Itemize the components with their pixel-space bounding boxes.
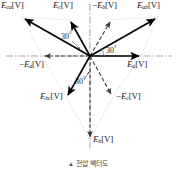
label-minus-Ec: −Ec[V]	[116, 92, 141, 101]
phasor-diagram: Eca[V] Ec[V] −Eb[V] Eab[V] −Ea[V] Ea[V] …	[0, 0, 176, 169]
phasor-Eab	[90, 19, 155, 56]
annotation-angle-lower: 30°	[75, 76, 85, 86]
origin-point	[89, 55, 91, 57]
phasor-minus-Ec	[90, 56, 111, 94]
annotation-angle-upper-left: 30°	[61, 31, 71, 41]
label-Eab: Eab[V]	[137, 1, 160, 10]
label-minus-Eb: −Eb[V]	[92, 1, 117, 10]
label-Ea: Ea[V]	[127, 60, 147, 69]
label-minus-Ea: −Ea[V]	[19, 60, 44, 69]
caption-marker-icon: ▲	[68, 161, 74, 167]
figure-caption: ▲전압 벡터도	[0, 158, 176, 168]
label-Ec: Ec[V]	[53, 1, 73, 10]
annotation-angle-right: 30°	[106, 45, 116, 55]
label-Ebc: Ebc[V]	[40, 92, 62, 101]
phasor-vector-graphic	[0, 0, 176, 169]
label-Eb: Eb[V]	[93, 135, 113, 144]
label-Eca: Eca[V]	[1, 1, 23, 10]
caption-text: 전압 벡터도	[76, 160, 108, 167]
